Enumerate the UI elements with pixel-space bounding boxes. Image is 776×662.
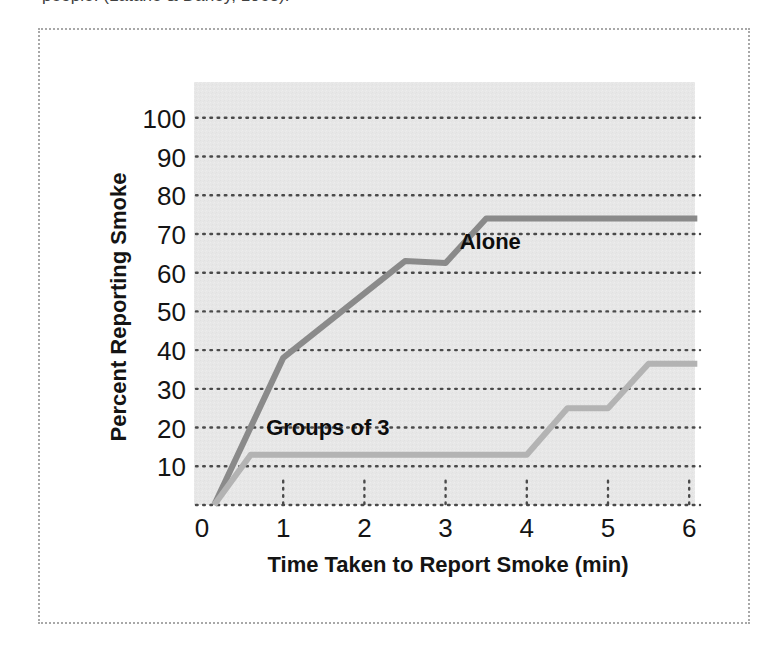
x-tick-label: 4	[520, 513, 534, 543]
x-tick-label: 3	[438, 513, 452, 543]
y-tick-label: 80	[157, 181, 186, 211]
series-label-groups-of-3: Groups of 3	[266, 415, 389, 440]
x-tick-label: 2	[357, 513, 371, 543]
x-tick-label: 1	[276, 513, 290, 543]
x-axis-title: Time Taken to Report Smoke (min)	[267, 552, 628, 577]
y-tick-label: 40	[157, 336, 186, 366]
y-tick-label: 90	[157, 143, 186, 173]
x-axis-tick-labels: 0123456	[195, 513, 697, 543]
y-tick-label: 70	[157, 220, 186, 250]
y-tick-label: 30	[157, 375, 186, 405]
y-tick-label: 50	[157, 297, 186, 327]
chart-svg: 102030405060708090100 0123456 AloneGroup…	[0, 0, 776, 662]
x-tick-label: 0	[195, 513, 209, 543]
y-tick-label: 20	[157, 414, 186, 444]
y-axis-tick-labels: 102030405060708090100	[143, 104, 186, 482]
y-axis-title: Percent Reporting Smoke	[106, 173, 131, 442]
y-tick-label: 10	[157, 452, 186, 482]
line-chart: 102030405060708090100 0123456 AloneGroup…	[0, 0, 776, 662]
y-tick-label: 100	[143, 104, 186, 134]
plot-background	[194, 82, 695, 505]
y-tick-label: 60	[157, 259, 186, 289]
x-tick-label: 5	[601, 513, 615, 543]
series-label-alone: Alone	[460, 229, 521, 254]
x-tick-label: 6	[682, 513, 696, 543]
